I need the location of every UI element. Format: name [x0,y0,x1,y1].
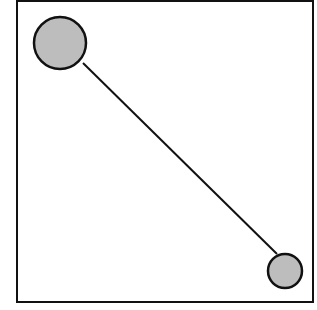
node-large-circle [34,17,86,69]
node-small-circle [268,254,302,288]
diagram-canvas [0,0,317,310]
edge-connector [83,63,277,254]
